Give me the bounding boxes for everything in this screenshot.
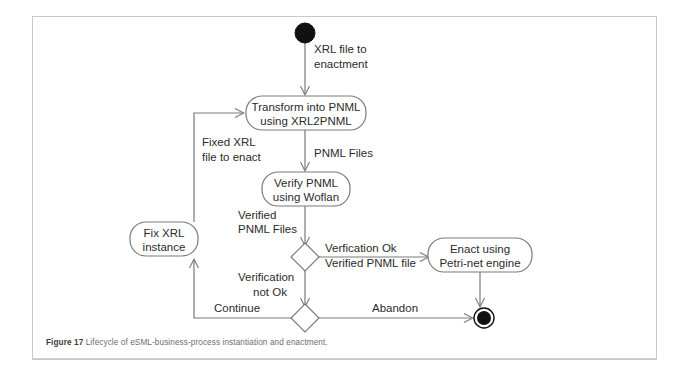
edge-label-verfication-ok: Verfication Ok — [325, 242, 397, 254]
action-enact-line2: Petri-net engine — [439, 257, 520, 269]
figure-container: Transform into PNML using XRL2PNML Verif… — [0, 0, 692, 380]
initial-node — [295, 23, 315, 43]
edge-label-xrl-file-to: XRL file to — [314, 43, 367, 55]
figure-caption: Figure 17 Lifecycle of eSML-business-pro… — [46, 338, 646, 347]
merge-node[interactable] — [291, 304, 319, 332]
action-verify-line1: Verify PNML — [274, 177, 339, 189]
edge-label-enactment: enactment — [314, 58, 369, 70]
action-transform-line1: Transform into PNML — [252, 101, 361, 113]
final-node-core — [477, 311, 491, 325]
edge-label-verified: Verified — [238, 209, 276, 221]
figure-caption-text: Lifecycle of eSML-business-process insta… — [86, 338, 328, 347]
activity-diagram: Transform into PNML using XRL2PNML Verif… — [0, 0, 692, 380]
action-fix-line2: instance — [143, 241, 186, 253]
action-transform-line2: using XRL2PNML — [260, 115, 352, 127]
edge-label-pnml-files: PNML Files — [314, 147, 373, 159]
decision-node[interactable] — [291, 243, 319, 271]
edge-label-file-to-enact: file to enact — [202, 151, 262, 163]
edge-label-verified-pnml-file: Verified PNML file — [325, 257, 416, 269]
figure-caption-label: Figure 17 — [46, 338, 83, 347]
action-verify-line2: using Woflan — [273, 191, 339, 203]
edge-label-abandon: Abandon — [372, 302, 418, 314]
edge-label-not-ok: not Ok — [253, 286, 287, 298]
caption-divider — [32, 358, 657, 359]
edge-label-verification: Verification — [238, 271, 294, 283]
edge-label-fixed-xrl: Fixed XRL — [202, 136, 256, 148]
edge-label-continue: Continue — [214, 302, 260, 314]
action-enact-line1: Enact using — [450, 243, 510, 255]
action-fix-line1: Fix XRL — [144, 227, 186, 239]
edge-label-verified-pnml-files: PNML Files — [238, 223, 297, 235]
edge-fix-to-transform — [194, 113, 243, 222]
